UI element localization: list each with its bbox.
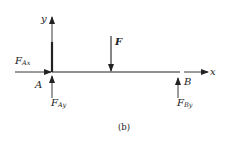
point-a-label: A [34, 79, 42, 90]
point-b-label: B [183, 76, 191, 87]
y-axis-label: y [40, 13, 47, 24]
figure-caption: (b) [118, 122, 130, 132]
x-axis-label: x [210, 66, 216, 77]
force-label-f-ax: FAx [14, 55, 31, 67]
force-label-f: F [114, 36, 123, 47]
free-body-diagram: y x FAx A FAy F FBy B (b) [0, 0, 231, 144]
force-label-f-ay: FAy [50, 97, 66, 109]
force-label-f-by: FBy [176, 97, 193, 109]
